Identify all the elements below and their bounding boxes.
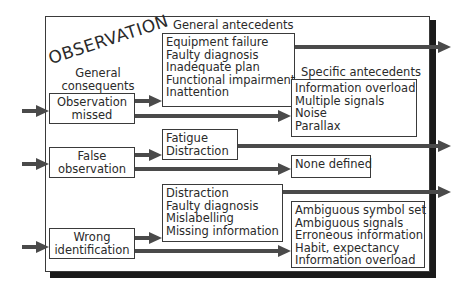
frame-shadow-right xyxy=(430,20,436,278)
arrow-line xyxy=(135,167,278,171)
arrow-head-icon xyxy=(438,140,451,152)
arrow-head-icon xyxy=(278,245,291,257)
header-general-consequents: General consequents xyxy=(60,67,136,93)
arrow-head-icon xyxy=(278,110,291,122)
arrow-head-icon xyxy=(278,163,291,175)
frame-shadow-bottom xyxy=(50,272,436,278)
exit-arrow-line-1 xyxy=(295,45,440,49)
general-antecedents-box-2: Fatigue Distraction xyxy=(162,129,238,160)
arrow-head-icon xyxy=(149,232,162,244)
header-general-antecedents: General antecedents xyxy=(173,19,293,32)
arrow-head-icon xyxy=(149,149,162,161)
specific-antecedents-box-2: None defined xyxy=(291,155,371,178)
general-antecedents-box-1: Equipment failure Faulty diagnosis Inade… xyxy=(162,33,295,107)
arrow-head-icon xyxy=(36,241,49,253)
arrow-head-icon xyxy=(438,41,451,53)
arrow-head-icon xyxy=(36,158,49,170)
arrow-line xyxy=(135,114,278,118)
general-antecedents-box-3: Distraction Faulty diagnosis Mislabellin… xyxy=(162,184,283,242)
arrow-head-icon xyxy=(438,186,451,198)
specific-antecedents-box-1: Information overload Multiple signals No… xyxy=(291,79,417,137)
specific-antecedents-box-3: Ambiguous symbol set Ambiguous signals E… xyxy=(291,201,425,268)
arrow-head-icon xyxy=(149,95,162,107)
consequent-observation-missed: Observation missed xyxy=(49,93,135,124)
exit-arrow-line-3 xyxy=(283,190,440,194)
arrow-head-icon xyxy=(36,105,49,117)
consequent-false-observation: False observation xyxy=(49,147,135,178)
consequent-wrong-identification: Wrong identification xyxy=(49,228,135,259)
exit-arrow-line-2 xyxy=(238,144,440,148)
arrow-line xyxy=(135,249,278,253)
header-specific-antecedents: Specific antecedents xyxy=(301,66,421,79)
